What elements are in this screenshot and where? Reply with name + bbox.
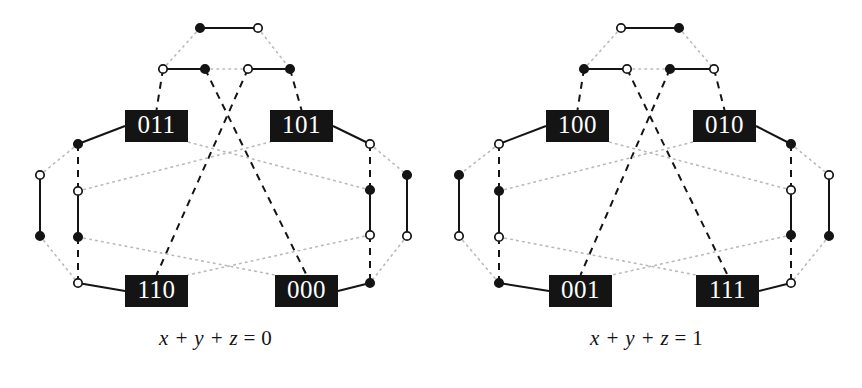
graph-node-filled [787, 231, 795, 239]
graph-node-filled [36, 232, 44, 240]
graph-edge-dotted [40, 144, 78, 175]
graph-edge-dotted [499, 237, 696, 275]
graph-node-open [623, 65, 631, 73]
graph-edge-dotted [791, 236, 829, 283]
graph-edge-dotted [459, 144, 499, 175]
vertex-box: 010 [693, 110, 756, 142]
graph-node-open [495, 140, 503, 148]
graph-edge-dotted [163, 28, 200, 69]
vertex-box: 111 [696, 275, 759, 307]
caption-left-expression: x + y + z [159, 326, 238, 350]
graph-edge-dotted [370, 236, 407, 283]
graph-edge-dotted [188, 235, 370, 275]
vertex-box-label: 001 [561, 276, 600, 303]
vertex-box-label: 010 [705, 111, 744, 138]
graph-edge-dashed [290, 69, 302, 110]
graph-node-open [366, 140, 374, 148]
graph-edge-dotted [609, 142, 791, 190]
vertex-box: 001 [549, 275, 612, 307]
graph-node-open [159, 65, 167, 73]
vertex-box: 011 [125, 110, 188, 142]
graph-edge-dashed [627, 69, 728, 275]
graph-node-open [254, 24, 262, 32]
graph-edge-dotted [40, 236, 78, 283]
graph-node-open [74, 279, 82, 287]
graph-edge-dashed [578, 69, 585, 110]
graph-edge-solid [756, 126, 791, 144]
graph-node-filled [201, 65, 209, 73]
graph-node-open [244, 65, 252, 73]
caption-right-equals: = [674, 326, 686, 350]
graph-edge-dashed [714, 69, 725, 110]
panel-right: 100010001111 x + y + z = 1 [431, 0, 862, 388]
graph-node-filled [580, 65, 588, 73]
caption-left-equals: = [243, 326, 255, 350]
caption-left-value: 0 [261, 326, 272, 350]
graph-node-open [403, 232, 411, 240]
cube-graph-right: 100010001111 [431, 0, 862, 330]
graph-edge-dotted [612, 235, 791, 275]
graph-edge-solid [333, 126, 370, 144]
graph-edge-dotted [188, 142, 370, 190]
caption-right-expression: x + y + z [590, 326, 669, 350]
vertex-box-label: 100 [558, 111, 597, 138]
graph-edge-dotted [370, 144, 407, 175]
graph-node-filled [403, 171, 411, 179]
graph-node-filled [286, 65, 294, 73]
graph-edge-dotted [459, 236, 499, 283]
graph-edge-dashed [205, 69, 307, 275]
vertex-box: 101 [270, 110, 333, 142]
graph-node-filled [495, 187, 503, 195]
graph-node-open [74, 187, 82, 195]
graph-node-open [36, 171, 44, 179]
vertex-box-label: 101 [282, 111, 321, 138]
graph-edge-dashed [157, 69, 249, 275]
graph-edge-dotted [584, 28, 621, 69]
graph-node-filled [74, 140, 82, 148]
graph-edge-solid [499, 283, 549, 291]
graph-node-open [495, 233, 503, 241]
graph-node-filled [675, 24, 683, 32]
figure-root: 011101110000 x + y + z = 0 100010001111 … [0, 0, 862, 388]
graph-node-filled [666, 65, 674, 73]
graph-node-open [787, 186, 795, 194]
graph-edge-dotted [78, 237, 275, 275]
graph-node-open [455, 232, 463, 240]
graph-node-open [825, 171, 833, 179]
graph-node-filled [455, 171, 463, 179]
graph-node-filled [74, 233, 82, 241]
graph-node-filled [787, 140, 795, 148]
panel-left: 011101110000 x + y + z = 0 [0, 0, 431, 388]
graph-edge-dotted [791, 144, 829, 175]
graph-node-filled [196, 24, 204, 32]
caption-left: x + y + z = 0 [0, 326, 431, 351]
graph-edge-dotted [679, 28, 714, 69]
graph-edge-dotted [78, 142, 270, 191]
graph-node-open [710, 65, 718, 73]
vertex-box-label: 111 [709, 276, 746, 303]
caption-right-value: 1 [692, 326, 703, 350]
graph-edge-solid [78, 126, 125, 144]
graph-node-open [617, 24, 625, 32]
graph-node-open [787, 279, 795, 287]
graph-node-filled [495, 279, 503, 287]
graph-edge-solid [78, 283, 125, 291]
vertex-box: 000 [275, 275, 338, 307]
vertex-box-label: 011 [137, 111, 175, 138]
graph-node-filled [366, 279, 374, 287]
vertex-box-label: 000 [287, 276, 326, 303]
caption-right: x + y + z = 1 [431, 326, 862, 351]
graph-edge-dotted [258, 28, 290, 69]
vertex-box: 100 [546, 110, 609, 142]
graph-node-open [366, 231, 374, 239]
graph-edge-solid [499, 126, 546, 144]
cube-graph-left: 011101110000 [0, 0, 431, 330]
graph-node-filled [825, 232, 833, 240]
graph-edge-dotted [499, 142, 693, 191]
graph-node-filled [366, 186, 374, 194]
vertex-box-label: 110 [137, 276, 175, 303]
graph-edge-dashed [581, 69, 671, 275]
graph-edge-dashed [157, 69, 164, 110]
vertex-box: 110 [125, 275, 188, 307]
